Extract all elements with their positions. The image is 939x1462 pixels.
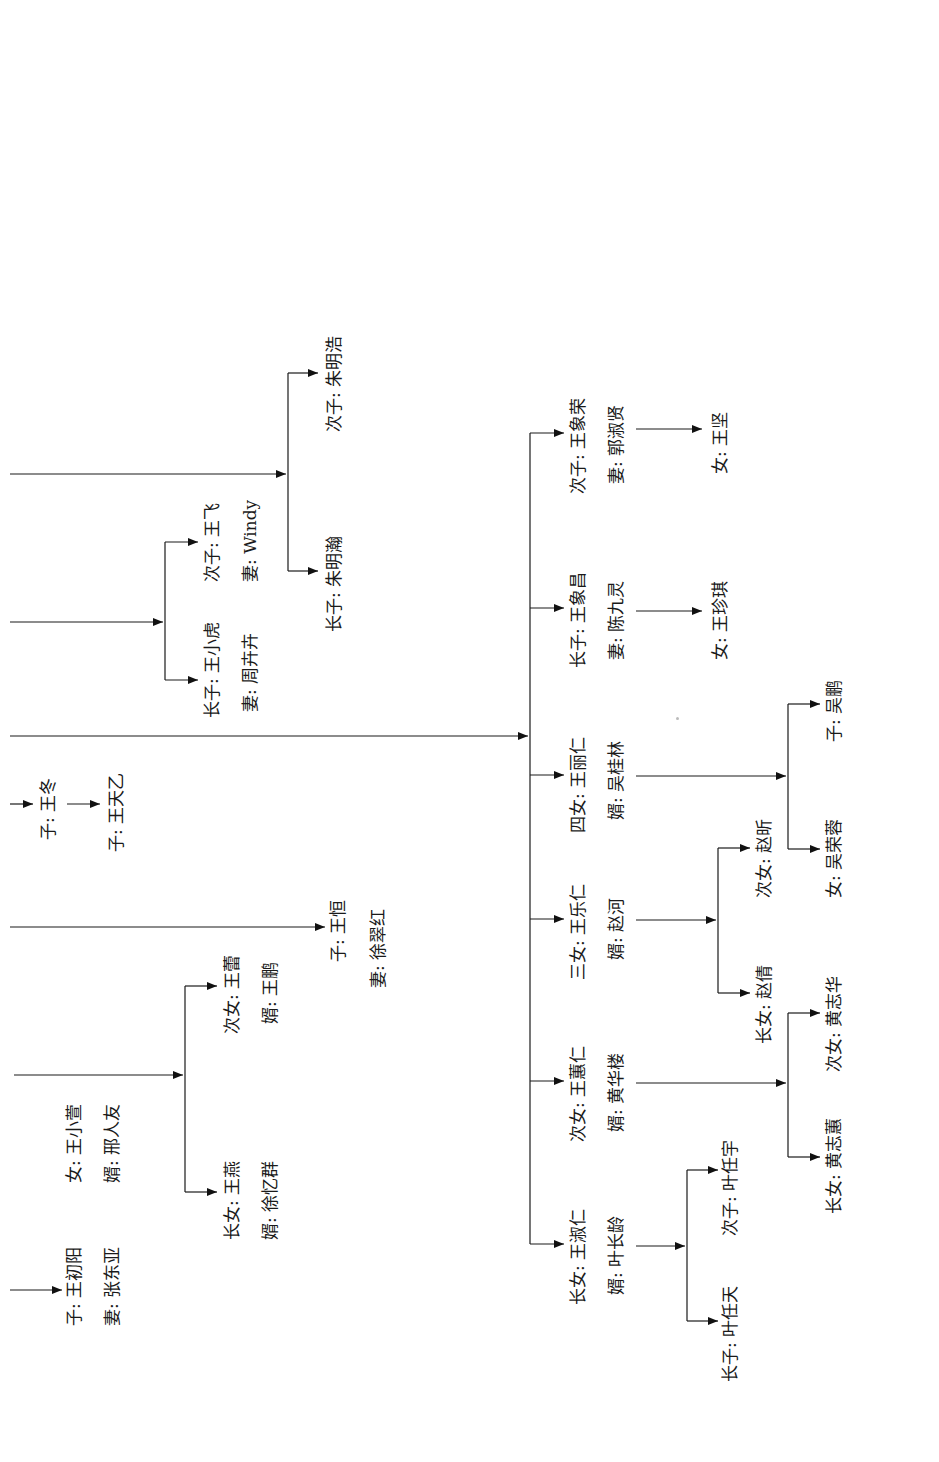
label-huang-zhihui: 长女: 黄志蕙 xyxy=(826,1118,843,1214)
label-wu-rongrong: 女: 吴荣蓉 xyxy=(826,819,843,898)
label-wang-xiaohu-wife: 妻: 周卉卉 xyxy=(242,633,259,712)
label-ye-rentian: 长子: 叶任天 xyxy=(722,1286,739,1382)
label-ye-renyu: 次子: 叶任宇 xyxy=(722,1140,739,1236)
label-wang-yan: 长女: 王燕 xyxy=(224,1161,241,1240)
family-tree-diagram: 子: 王初阳 妻: 张东亚 女: 王小萱 婿: 邢人友 长女: 王燕 婿: 徐忆… xyxy=(0,0,939,1462)
label-wang-huiren-husband: 婿: 黄华楼 xyxy=(608,1053,625,1132)
label-wang-xiaohu: 长子: 王小虎 xyxy=(204,622,221,718)
label-wang-chuyang: 子: 王初阳 xyxy=(66,1247,83,1326)
label-wang-xiangrong: 次子: 王象荣 xyxy=(570,398,587,494)
label-wang-heng: 子: 王恒 xyxy=(330,900,347,962)
label-wang-leren: 三女: 王乐仁 xyxy=(570,884,587,980)
label-wang-jian: 女: 王坚 xyxy=(712,412,729,474)
label-zhao-xin: 次女: 赵昕 xyxy=(756,819,773,898)
label-wang-liren: 四女: 王丽仁 xyxy=(570,737,587,833)
label-wang-fei-wife: 妻: Windy xyxy=(242,500,259,582)
label-zhu-minghan: 长子: 朱明瀚 xyxy=(326,536,343,632)
label-wang-huiren: 次女: 王蕙仁 xyxy=(570,1046,587,1142)
connector-lines xyxy=(0,0,939,1462)
label-zhu-minghao: 次子: 朱明浩 xyxy=(326,336,343,432)
label-wang-leren-husband: 婿: 赵河 xyxy=(608,898,625,960)
label-wang-xiangchang: 长子: 王象昌 xyxy=(570,572,587,668)
label-wu-peng: 子: 吴鹏 xyxy=(826,680,843,742)
label-wang-shuren: 长女: 王淑仁 xyxy=(570,1209,587,1305)
label-wang-liren-husband: 婿: 吴桂林 xyxy=(608,741,625,820)
label-wang-xiaoxuan: 女: 王小萱 xyxy=(66,1104,83,1183)
label-wang-yan-husband: 婿: 徐忆群 xyxy=(262,1161,279,1240)
label-wang-fei: 次子: 王飞 xyxy=(204,503,221,582)
label-wang-dong: 子: 王冬 xyxy=(40,778,57,840)
label-wang-chuyang-wife: 妻: 张东亚 xyxy=(104,1247,121,1326)
label-zhao-qian: 长女: 赵倩 xyxy=(756,965,773,1044)
label-huang-zhihua: 次女: 黄志华 xyxy=(826,976,843,1072)
label-wang-lei: 次女: 王蕾 xyxy=(224,955,241,1034)
scan-speck xyxy=(676,717,679,720)
label-wang-shuren-husband: 婿: 叶长龄 xyxy=(608,1216,625,1295)
label-wang-heng-wife: 妻: 徐翠红 xyxy=(370,909,387,988)
label-wang-tianyi: 子: 王天乙 xyxy=(108,773,125,852)
label-wang-lei-husband: 婿: 王鹏 xyxy=(262,962,279,1024)
label-wang-xiaoxuan-husband: 婿: 邢人友 xyxy=(104,1104,121,1183)
label-wang-xiangchang-wife: 妻: 陈九灵 xyxy=(608,581,625,660)
label-wang-xiangrong-wife: 妻: 郭淑贤 xyxy=(608,405,625,484)
label-wang-zhenqi: 女: 王珍琪 xyxy=(712,581,729,660)
